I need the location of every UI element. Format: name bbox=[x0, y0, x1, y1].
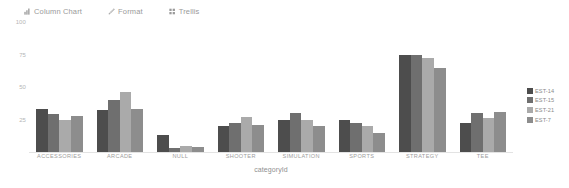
bar[interactable] bbox=[301, 120, 313, 153]
legend-item-label: EST-15 bbox=[535, 97, 554, 103]
x-axis-label-null: NULL bbox=[150, 153, 211, 165]
legend-swatch-icon bbox=[527, 97, 533, 103]
bar[interactable] bbox=[218, 126, 230, 152]
bar[interactable] bbox=[483, 118, 495, 152]
bar[interactable] bbox=[373, 133, 385, 153]
x-axis-label-accessories: ACCESSORIES bbox=[29, 153, 90, 165]
bar[interactable] bbox=[494, 112, 506, 152]
toolbar-item-format-label: Format bbox=[118, 7, 143, 16]
legend-item-est-15[interactable]: EST-15 bbox=[527, 96, 569, 106]
toolbar-item-trellis[interactable]: Trellis bbox=[169, 7, 200, 16]
bar-groups bbox=[29, 22, 513, 152]
bar-group-tee bbox=[453, 22, 514, 152]
bar[interactable] bbox=[252, 125, 264, 152]
bar[interactable] bbox=[460, 123, 472, 152]
bar[interactable] bbox=[36, 109, 48, 152]
y-axis-tick-labels: 100755025 bbox=[0, 22, 30, 188]
legend-swatch-icon bbox=[527, 88, 533, 94]
bar-group-null bbox=[150, 22, 211, 152]
x-axis-title: categoryId bbox=[29, 166, 513, 173]
legend-item-est-14[interactable]: EST-14 bbox=[527, 86, 569, 96]
bar[interactable] bbox=[120, 92, 132, 152]
bar[interactable] bbox=[434, 68, 446, 153]
bar[interactable] bbox=[399, 55, 411, 153]
legend-item-label: EST-7 bbox=[535, 117, 551, 123]
bar[interactable] bbox=[471, 113, 483, 152]
x-axis-label-tee: TEE bbox=[453, 153, 514, 165]
x-axis-category-labels: ACCESSORIESARCADENULLSHOOTERSIMULATIONSP… bbox=[29, 153, 513, 165]
bar-group-accessories bbox=[29, 22, 90, 152]
x-axis-label-sports: SPORTS bbox=[332, 153, 393, 165]
bar[interactable] bbox=[241, 117, 253, 152]
bar-group-shooter bbox=[211, 22, 272, 152]
bar[interactable] bbox=[350, 123, 362, 152]
bar-chart-plot: 100755025 ACCESSORIESARCADENULLSHOOTERSI… bbox=[0, 22, 569, 188]
bar[interactable] bbox=[180, 146, 192, 153]
y-axis-tick-50: 50 bbox=[19, 84, 26, 90]
bar[interactable] bbox=[97, 110, 109, 152]
x-axis-label-simulation: SIMULATION bbox=[271, 153, 332, 165]
toolbar-item-column-chart[interactable]: Column Chart bbox=[24, 7, 82, 16]
bar[interactable] bbox=[157, 135, 169, 152]
bar[interactable] bbox=[290, 113, 302, 152]
pencil-icon bbox=[108, 8, 115, 15]
bar[interactable] bbox=[59, 120, 71, 153]
bar[interactable] bbox=[229, 123, 241, 152]
y-axis-tick-100: 100 bbox=[16, 19, 26, 25]
bar[interactable] bbox=[362, 126, 374, 152]
bar[interactable] bbox=[422, 58, 434, 152]
bar[interactable] bbox=[108, 100, 120, 152]
chart-toolbar: Column Chart Format Trellis bbox=[0, 0, 569, 22]
bar-group-arcade bbox=[90, 22, 151, 152]
legend-item-est-7[interactable]: EST-7 bbox=[527, 115, 569, 125]
bar[interactable] bbox=[278, 120, 290, 153]
column-chart-icon bbox=[24, 8, 31, 15]
bar-group-strategy bbox=[392, 22, 453, 152]
y-axis-tick-75: 75 bbox=[19, 52, 26, 58]
legend-item-est-21[interactable]: EST-21 bbox=[527, 105, 569, 115]
toolbar-item-column-chart-label: Column Chart bbox=[34, 7, 82, 16]
bar[interactable] bbox=[131, 109, 143, 152]
bar-group-sports bbox=[332, 22, 393, 152]
bar[interactable] bbox=[48, 114, 60, 152]
toolbar-item-format[interactable]: Format bbox=[108, 7, 143, 16]
chart-legend: EST-14EST-15EST-21EST-7 bbox=[527, 86, 569, 124]
x-axis-label-arcade: ARCADE bbox=[90, 153, 151, 165]
y-axis-tick-25: 25 bbox=[19, 117, 26, 123]
bar-group-simulation bbox=[271, 22, 332, 152]
trellis-grid-icon bbox=[169, 8, 176, 15]
x-axis-label-shooter: SHOOTER bbox=[211, 153, 272, 165]
bar[interactable] bbox=[192, 147, 204, 152]
bar[interactable] bbox=[339, 120, 351, 153]
legend-item-label: EST-14 bbox=[535, 88, 554, 94]
legend-swatch-icon bbox=[527, 117, 533, 123]
bar[interactable] bbox=[169, 148, 181, 152]
x-axis-label-strategy: STRATEGY bbox=[392, 153, 453, 165]
bar[interactable] bbox=[71, 116, 83, 152]
bar[interactable] bbox=[313, 126, 325, 152]
legend-item-label: EST-21 bbox=[535, 107, 554, 113]
toolbar-item-trellis-label: Trellis bbox=[179, 7, 200, 16]
bar[interactable] bbox=[411, 55, 423, 153]
legend-swatch-icon bbox=[527, 107, 533, 113]
